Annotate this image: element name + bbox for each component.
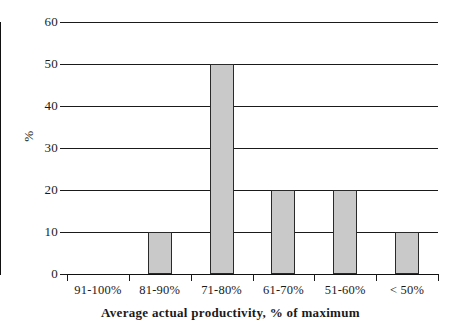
x-axis-tick-label: 91-100%: [67, 283, 129, 297]
bar: [333, 190, 357, 274]
x-axis-tick-mark: [253, 274, 254, 281]
bar: [148, 232, 172, 274]
bar: [210, 64, 234, 274]
x-axis-tick-label: < 50%: [376, 283, 438, 297]
x-axis-tick-mark: [67, 274, 68, 281]
gridline: [67, 148, 438, 149]
x-axis-tick-mark: [314, 274, 315, 281]
bar-chart: % 6050403020100 91-100%81-90%71-80%61-70…: [0, 0, 461, 332]
y-axis-tick-label: 30: [32, 141, 58, 154]
y-axis-tick-label: 10: [32, 225, 58, 238]
gridline: [67, 232, 438, 233]
y-axis-tick-label: 60: [32, 15, 58, 28]
plot-area: [67, 22, 438, 274]
y-axis-line: [0, 22, 1, 275]
x-axis-tick-label: 51-60%: [314, 283, 376, 297]
gridline: [67, 106, 438, 107]
gridline: [67, 22, 438, 23]
y-axis-tick-label: 20: [32, 183, 58, 196]
x-axis-title: Average actual productivity, % of maximu…: [0, 305, 461, 321]
x-axis-tick-mark: [191, 274, 192, 281]
x-axis-tick-label: 71-80%: [191, 283, 253, 297]
bar: [395, 232, 419, 274]
x-axis-tick-label: 81-90%: [129, 283, 191, 297]
gridline: [67, 190, 438, 191]
y-axis-tick-label: 0: [32, 267, 58, 280]
bar: [271, 190, 295, 274]
x-axis-tick-mark: [438, 274, 439, 281]
x-axis-tick-label: 61-70%: [253, 283, 315, 297]
gridline: [67, 64, 438, 65]
x-axis-tick-mark: [129, 274, 130, 281]
y-axis-tick-label: 50: [32, 57, 58, 70]
x-axis-tick-mark: [376, 274, 377, 281]
y-axis-tick-label: 40: [32, 99, 58, 112]
